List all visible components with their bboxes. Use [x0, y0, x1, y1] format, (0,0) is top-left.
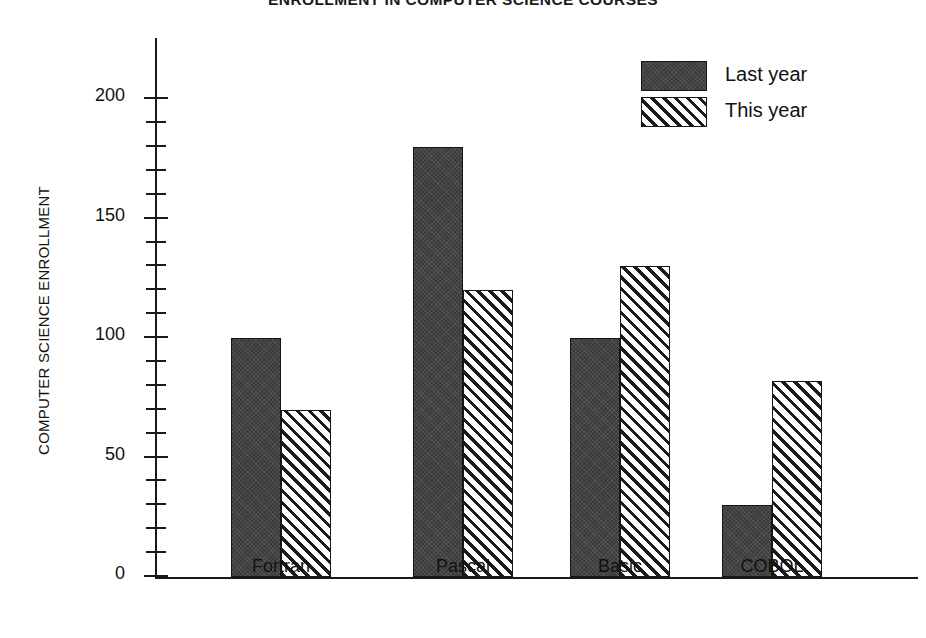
y-axis-major-tick: 100 [144, 336, 168, 338]
legend-swatch-icon [641, 97, 707, 127]
bar-pascal-last-year [413, 147, 463, 577]
bar-pascal-this-year [463, 290, 513, 577]
bar-fortran-this-year [281, 410, 331, 577]
chart-title: ENROLLMENT IN COMPUTER SCIENCE COURSES [0, 0, 926, 9]
y-axis-minor-tick [146, 241, 166, 243]
y-axis-minor-tick [146, 479, 166, 481]
y-axis-minor-tick [146, 360, 166, 362]
y-axis-minor-tick [146, 551, 166, 553]
x-axis-label-pascal: Pascal [436, 556, 490, 577]
bar-cobol-this-year [772, 381, 822, 577]
x-axis-label-fortran: Fortran [252, 556, 310, 577]
y-axis-tick-label: 0 [115, 563, 125, 584]
y-axis-tick-label: 100 [95, 324, 125, 345]
y-axis-minor-tick [146, 145, 166, 147]
y-axis-line [155, 38, 157, 578]
y-axis-tick-label: 50 [105, 444, 125, 465]
y-axis-tick-label: 200 [95, 85, 125, 106]
y-axis-major-tick: 0 [144, 575, 168, 577]
y-axis-minor-tick [146, 527, 166, 529]
y-axis-major-tick: 150 [144, 217, 168, 219]
y-axis-minor-tick [146, 408, 166, 410]
bar-fortran-last-year [231, 338, 281, 577]
y-axis-minor-tick [146, 121, 166, 123]
bar-basic-this-year [620, 266, 670, 577]
x-axis-label-cobol: COBOL [740, 556, 803, 577]
y-axis-minor-tick [146, 169, 166, 171]
y-axis-minor-tick [146, 288, 166, 290]
y-axis-minor-tick [146, 503, 166, 505]
y-axis-minor-tick [146, 384, 166, 386]
y-axis-major-tick: 200 [144, 97, 168, 99]
y-axis-tick-label: 150 [95, 205, 125, 226]
y-axis-minor-tick [146, 312, 166, 314]
y-axis-major-tick: 50 [144, 456, 168, 458]
x-axis-label-basic: Basic [598, 556, 642, 577]
legend-item-label: This year [725, 99, 807, 122]
y-axis-minor-tick [146, 432, 166, 434]
y-axis-minor-tick [146, 264, 166, 266]
x-axis-line [155, 577, 918, 579]
y-axis-minor-tick [146, 193, 166, 195]
y-axis-title: COMPUTER SCIENCE ENROLLMENT [35, 71, 52, 571]
bar-basic-last-year [570, 338, 620, 577]
legend-swatch-icon [641, 61, 707, 91]
legend-item-label: Last year [725, 63, 807, 86]
bar-chart: ENROLLMENT IN COMPUTER SCIENCE COURSES C… [0, 0, 926, 638]
